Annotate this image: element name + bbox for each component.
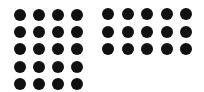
dot bbox=[52, 43, 64, 55]
dot bbox=[33, 78, 45, 90]
dot bbox=[180, 43, 192, 55]
dot bbox=[52, 26, 64, 38]
dot bbox=[141, 43, 153, 55]
dot bbox=[71, 78, 83, 90]
dot bbox=[161, 8, 173, 20]
dot bbox=[33, 26, 45, 38]
dot bbox=[122, 43, 134, 55]
dot bbox=[33, 61, 45, 73]
dot bbox=[52, 61, 64, 73]
dot bbox=[14, 61, 26, 73]
dot bbox=[102, 43, 114, 55]
dot bbox=[52, 78, 64, 90]
dot bbox=[71, 43, 83, 55]
dot bbox=[52, 9, 64, 21]
dot bbox=[180, 26, 192, 38]
dot bbox=[122, 8, 134, 20]
dot bbox=[33, 43, 45, 55]
dot bbox=[141, 26, 153, 38]
dot bbox=[180, 8, 192, 20]
dot bbox=[14, 26, 26, 38]
dot bbox=[71, 61, 83, 73]
dot bbox=[102, 8, 114, 20]
dot bbox=[141, 8, 153, 20]
dot bbox=[161, 43, 173, 55]
dot bbox=[71, 26, 83, 38]
dot bbox=[161, 26, 173, 38]
dot bbox=[14, 9, 26, 21]
dot bbox=[71, 9, 83, 21]
dot bbox=[33, 9, 45, 21]
dot bbox=[14, 78, 26, 90]
dot bbox=[122, 26, 134, 38]
dot bbox=[102, 26, 114, 38]
dot bbox=[14, 43, 26, 55]
